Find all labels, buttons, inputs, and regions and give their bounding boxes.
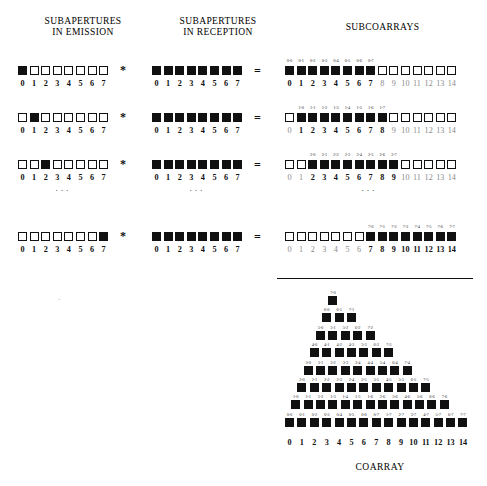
axis-tick: 3 (53, 79, 62, 88)
subcoarray-labels: 1-01-11-21-31-41-51-61-7 (285, 105, 389, 110)
cell-active (403, 400, 412, 409)
axis-tick: 10 (401, 126, 410, 135)
axis-tick: 2 (41, 245, 50, 254)
label-spacer (285, 224, 294, 229)
cell-active (372, 418, 381, 427)
axis-tick: 14 (447, 79, 456, 88)
axis-tick: 3 (187, 79, 196, 88)
coarray-element-label: 2-7 (397, 412, 406, 417)
cell-active (384, 348, 393, 357)
axis-tick: 1 (164, 245, 173, 254)
header-subcoarrays: SUBCOARRAYS (290, 22, 475, 33)
cell-active (341, 400, 350, 409)
subcoarray-element-label: 0-1 (297, 58, 306, 63)
axis-tick: 11 (413, 126, 422, 135)
coarray-element-label: 1-7 (384, 412, 393, 417)
axis-tick: 6 (355, 79, 364, 88)
axis-tick: 2 (308, 173, 317, 182)
axis-tick: 2 (308, 79, 317, 88)
cell-active (331, 160, 340, 169)
axis-tick: 3 (53, 126, 62, 135)
axis-tick: 6 (88, 79, 97, 88)
cell-active (343, 113, 352, 122)
subcoarray-element-label: 0-2 (308, 58, 317, 63)
coarray-element-label: 1-5 (353, 394, 362, 399)
cell-active (390, 366, 399, 375)
cell-active (384, 383, 393, 392)
axis-tick: 11 (413, 245, 422, 254)
cell-active (328, 331, 337, 340)
cell-active (316, 366, 325, 375)
axis-tick: 13 (436, 173, 445, 182)
cell-active (187, 66, 196, 75)
equals-operator: = (254, 158, 261, 173)
cell-active (285, 418, 294, 427)
cell-active (347, 348, 356, 357)
cell-active (355, 113, 364, 122)
subcoarray-labels: 0-00-10-20-30-40-50-60-7 (285, 58, 378, 63)
cell-inactive (378, 66, 387, 75)
cell-active (409, 418, 418, 427)
cell-active (233, 160, 242, 169)
coarray-element-label: 2-2 (322, 377, 331, 382)
axis-tick: 4 (331, 126, 340, 135)
cell-active (366, 331, 375, 340)
coarray-element-label: 7-7 (458, 412, 467, 417)
subcoarray-element-label: 7-3 (401, 224, 410, 229)
ellipsis-emission: · · · (52, 186, 72, 195)
coarray-element-label: 4-5 (384, 377, 393, 382)
reception-aperture-row (152, 160, 245, 169)
ellipsis-reception: · · · (186, 186, 206, 195)
axis-tick: 7 (99, 79, 108, 88)
cell-inactive (99, 160, 108, 169)
cell-active (341, 331, 350, 340)
cell-active (198, 66, 207, 75)
cell-active (424, 232, 433, 241)
coarray-element-label: 2-1 (310, 377, 319, 382)
coarray-element-label: 3-7 (409, 412, 418, 417)
coarray-element-label: 5-6 (415, 394, 424, 399)
label-spacer (320, 224, 329, 229)
convolution-operator: * (120, 229, 126, 244)
cell-active (440, 400, 449, 409)
cell-inactive (413, 160, 422, 169)
cell-inactive (99, 113, 108, 122)
cell-active (233, 66, 242, 75)
coarray-element-label: 6-3 (372, 342, 381, 347)
cell-inactive (53, 160, 62, 169)
subcoarray-axis: 01234567891011121314 (285, 245, 459, 254)
cell-inactive (88, 113, 97, 122)
cell-active (366, 366, 375, 375)
cell-active (310, 348, 319, 357)
coarray-element-label: 7-2 (366, 325, 375, 330)
cell-active (415, 400, 424, 409)
cell-inactive (64, 160, 73, 169)
coarray-element-label: 5-3 (359, 342, 368, 347)
subcoarray-element-label: 1-7 (378, 105, 387, 110)
emission-aperture-row (18, 232, 111, 241)
axis-tick: 0 (152, 79, 161, 88)
cell-inactive (343, 232, 352, 241)
axis-tick: 1 (30, 245, 39, 254)
axis-tick: 2 (41, 126, 50, 135)
cell-active (355, 66, 364, 75)
cell-active (297, 66, 306, 75)
coarray-row-labels: 1-01-11-21-31-41-51-62-63-64-65-66-67-6 (291, 394, 452, 399)
cell-active (175, 113, 184, 122)
cell-active (297, 113, 306, 122)
axis-tick: 3 (320, 126, 329, 135)
axis-tick: 6 (222, 173, 231, 182)
cell-active (297, 383, 306, 392)
coarray-element-label: 7-5 (421, 377, 430, 382)
cell-inactive (18, 160, 27, 169)
subcoarray-element-label: 0-5 (343, 58, 352, 63)
subcoarray-element-label: 7-6 (436, 224, 445, 229)
axis-tick: 2 (41, 173, 50, 182)
coarray-element-label: 7-4 (403, 360, 412, 365)
subcoarray-element-label: 2-1 (320, 152, 329, 157)
subcoarray-element-label: 0-3 (320, 58, 329, 63)
cell-active (421, 383, 430, 392)
cell-active (328, 296, 337, 305)
coarray-element-label: 0-7 (372, 412, 381, 417)
cell-active (378, 232, 387, 241)
